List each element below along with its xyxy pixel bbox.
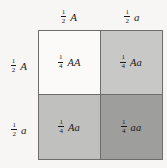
allele-label: A xyxy=(70,11,77,23)
punnett-cell-AA: 1 4 AA xyxy=(39,31,101,95)
punnett-grid: 1 4 AA 1 4 Aa 1 4 Aa 1 xyxy=(38,30,163,160)
allele-label: a xyxy=(21,124,27,136)
fraction-one-quarter: 1 4 xyxy=(120,54,126,70)
genotype-label: Aa xyxy=(68,122,80,133)
fraction-denominator: 4 xyxy=(58,128,64,135)
column-header-allele-a: 1 2 a xyxy=(101,8,163,26)
fraction-one-quarter: 1 4 xyxy=(58,119,64,135)
fraction-numerator: 1 xyxy=(121,119,127,126)
genotype-label: AA xyxy=(67,57,80,68)
genotype-label: Aa xyxy=(130,57,142,68)
genotype-label: aa xyxy=(131,122,142,133)
fraction-numerator: 1 xyxy=(58,119,64,126)
fraction-numerator: 1 xyxy=(11,58,17,65)
column-header-allele-A: 1 2 A xyxy=(38,8,100,26)
fraction-numerator: 1 xyxy=(11,122,17,129)
punnett-square-figure: 1 2 A 1 2 a 1 2 A 1 2 a xyxy=(0,0,167,168)
fraction-one-half: 1 2 xyxy=(61,9,67,25)
fraction-one-quarter: 1 4 xyxy=(58,54,64,70)
fraction-numerator: 1 xyxy=(61,9,67,16)
fraction-denominator: 4 xyxy=(120,63,126,70)
punnett-cell-Aa-bottom: 1 4 Aa xyxy=(39,95,101,159)
allele-label: a xyxy=(134,11,140,23)
fraction-one-half: 1 2 xyxy=(124,9,130,25)
punnett-cell-aa: 1 4 aa xyxy=(101,95,163,159)
fraction-numerator: 1 xyxy=(58,54,64,61)
allele-label: A xyxy=(20,60,27,72)
row-header-allele-a: 1 2 a xyxy=(0,121,38,139)
row-header-allele-A: 1 2 A xyxy=(0,57,38,75)
fraction-denominator: 2 xyxy=(61,18,67,25)
fraction-one-half: 1 2 xyxy=(11,122,17,138)
fraction-one-half: 1 2 xyxy=(11,58,17,74)
fraction-one-quarter: 1 4 xyxy=(121,119,127,135)
fraction-numerator: 1 xyxy=(124,9,130,16)
fraction-denominator: 2 xyxy=(11,67,17,74)
fraction-numerator: 1 xyxy=(120,54,126,61)
fraction-denominator: 2 xyxy=(11,131,17,138)
fraction-denominator: 2 xyxy=(124,18,130,25)
fraction-denominator: 4 xyxy=(58,63,64,70)
fraction-denominator: 4 xyxy=(121,128,127,135)
punnett-cell-Aa-top: 1 4 Aa xyxy=(101,31,163,95)
